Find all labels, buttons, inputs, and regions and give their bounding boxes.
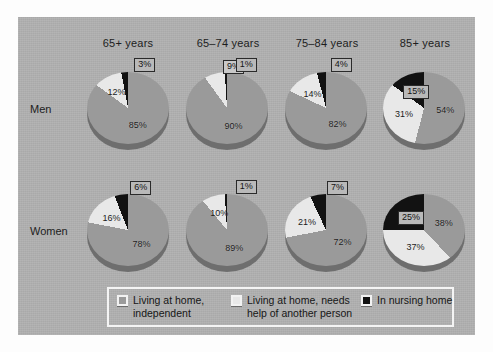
pie-slice-label: 15% [403,85,429,99]
pie-slices [186,72,268,144]
pie-wrapper: 54%31%15% [369,64,479,160]
legend-item-0: Living at home, independent [117,294,245,319]
pie-wrapper: 78%16%6% [73,186,183,282]
pie-slice-label: 12% [108,87,126,97]
pie-slice-label: 78% [133,239,151,249]
pie-slices [285,194,367,266]
pie-disc [186,72,268,144]
pie-chart-men-2: 90%9%1% [172,64,282,160]
pie-disc [186,194,268,266]
pie-slice-label: 21% [298,217,316,227]
pie-slice-label: 82% [328,119,346,129]
legend-swatch-needs-help [231,295,242,306]
pie-slice-label: 89% [225,243,243,253]
pie-wrapper: 90%9%1% [172,64,282,160]
pie-slice-label: 1% [236,180,257,194]
pie-chart-women-4: 38%37%25% [369,186,479,282]
legend-label-2: In nursing home [377,294,452,307]
pie-disc [87,72,169,144]
legend: Living at home, independent Living at ho… [107,287,454,327]
column-header-1: 65–74 years [173,37,283,49]
pie-slice-label: 1% [236,58,257,72]
pie-slice-label: 90% [225,121,243,131]
pie-disc [285,72,367,144]
pie-slices [383,194,465,266]
legend-item-2: In nursing home [361,294,461,307]
pie-slice-label: 85% [129,120,147,130]
legend-label-0: Living at home, independent [133,294,204,319]
pie-wrapper: 38%37%25% [369,186,479,282]
pie-slice-label: 7% [327,181,348,195]
pie-chart-women-2: 89%10%1% [172,186,282,282]
column-header-0: 65+ years [73,37,183,49]
pie-slice-label: 14% [303,89,321,99]
legend-label-1: Living at home, needs help of another pe… [247,294,352,319]
pie-slice-label: 3% [134,58,155,72]
pie-wrapper: 72%21%7% [271,186,381,282]
pie-wrapper: 82%14%4% [271,64,381,160]
pie-slices [186,194,268,266]
pie-slice-label: 54% [436,105,454,115]
legend-swatch-nursing-home [361,295,372,306]
pie-chart-women-1: 78%16%6% [73,186,183,282]
column-header-3: 85+ years [370,37,480,49]
pie-slice-label: 37% [407,242,425,252]
pie-slice-label: 25% [398,211,424,225]
legend-swatch-independent [117,295,128,306]
pie-wrapper: 89%10%1% [172,186,282,282]
pie-slice-label: 4% [331,58,352,72]
pie-chart-women-3: 72%21%7% [271,186,381,282]
pie-slices [285,72,367,144]
pie-disc [383,194,465,266]
legend-item-1: Living at home, needs help of another pe… [231,294,381,319]
pie-slice-label: 72% [333,237,351,247]
pie-chart-men-4: 54%31%15% [369,64,479,160]
legend-label-2-line1: In nursing home [377,294,452,306]
legend-label-1-line2: help of another person [247,307,352,319]
pie-wrapper: 85%12%3% [73,64,183,160]
pie-slices [87,194,169,266]
legend-label-1-line1: Living at home, needs [247,294,350,306]
pie-slice-label: 6% [130,181,151,195]
pie-slice-label: 16% [103,213,121,223]
legend-label-0-line1: Living at home, [133,294,204,306]
pie-chart-men-1: 85%12%3% [73,64,183,160]
pie-slice-label: 31% [395,109,413,119]
pie-disc [87,194,169,266]
pie-disc [285,194,367,266]
pie-chart-men-3: 82%14%4% [271,64,381,160]
pie-slice-label: 10% [210,208,228,218]
pie-slices [87,72,169,144]
legend-label-0-line2: independent [133,307,191,319]
pie-slice-label: 38% [435,218,453,228]
pie-chart-figure: 65+ years 65–74 years 75–84 years 85+ ye… [0,0,493,352]
column-header-2: 75–84 years [272,37,382,49]
